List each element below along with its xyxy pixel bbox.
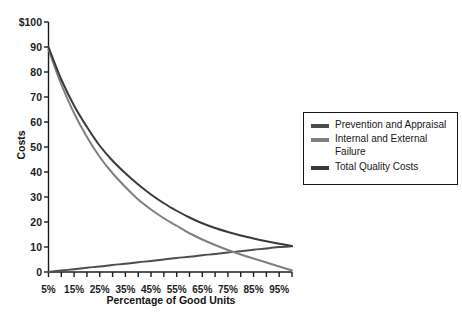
legend-swatch-total-quality-costs	[311, 166, 329, 170]
series-lines	[49, 47, 293, 272]
y-tick: 0	[6, 267, 42, 277]
y-tick: 30	[6, 192, 42, 202]
legend-item-internal-and-external-failure: Internal and External Failure	[311, 133, 453, 158]
x-axis-title: Percentage of Good Units	[48, 294, 294, 306]
quality-costs-chart: $1009080706050403020100 5%15%25%35%45%55…	[0, 0, 462, 326]
y-tick-label: 0	[6, 267, 42, 277]
legend: Prevention and Appraisal Internal and Ex…	[303, 112, 458, 185]
y-axis-title: Costs	[15, 115, 27, 175]
y-tick-label: 30	[6, 192, 42, 202]
series-line-internal-and-external-failure	[49, 50, 293, 271]
y-tick-label: 20	[6, 217, 42, 227]
legend-label-total-quality-costs: Total Quality Costs	[335, 161, 418, 174]
y-tick: $100	[6, 17, 42, 27]
legend-item-total-quality-costs: Total Quality Costs	[311, 161, 418, 174]
legend-label-internal-and-external-failure: Internal and External Failure	[335, 133, 453, 158]
y-tick: 70	[6, 92, 42, 102]
y-tick-label: 80	[6, 67, 42, 77]
legend-item-prevention-and-appraisal: Prevention and Appraisal	[311, 119, 446, 132]
y-tick: 10	[6, 242, 42, 252]
y-tick: 90	[6, 42, 42, 52]
y-tick-label: 10	[6, 242, 42, 252]
y-tick-label: 90	[6, 42, 42, 52]
legend-swatch-prevention-and-appraisal	[311, 124, 329, 128]
y-tick: 80	[6, 67, 42, 77]
y-tick-label: $100	[6, 17, 42, 27]
y-tick: 20	[6, 217, 42, 227]
legend-label-prevention-and-appraisal: Prevention and Appraisal	[335, 119, 446, 132]
series-line-total-quality-costs	[49, 47, 293, 246]
y-tick-label: 70	[6, 92, 42, 102]
axis-lines	[49, 22, 293, 272]
legend-swatch-internal-and-external-failure	[311, 138, 329, 142]
